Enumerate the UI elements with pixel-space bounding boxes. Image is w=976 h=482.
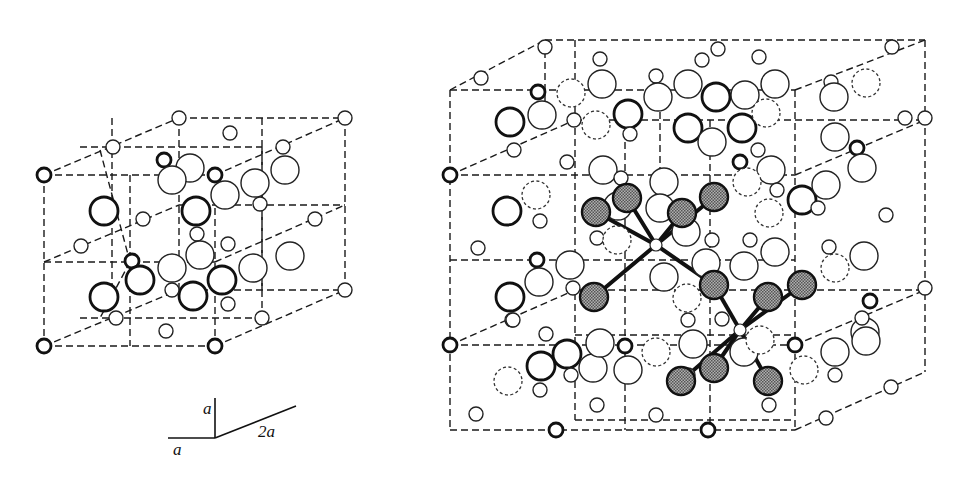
large-atom-thin — [821, 123, 849, 151]
large-atom-dashed — [852, 69, 880, 97]
small-atom-thin — [918, 281, 932, 295]
small-atom-thin — [165, 283, 179, 297]
small-atom-bold — [850, 141, 864, 155]
large-atom-thin — [848, 154, 876, 182]
small-atom-thin — [190, 227, 204, 241]
small-atom-thin — [811, 201, 825, 215]
large-atom-thin — [239, 254, 267, 282]
large-atom-thin — [820, 83, 848, 111]
small-atom-thin — [223, 126, 237, 140]
large-atom-thin — [730, 252, 758, 280]
small-atom-bold — [37, 168, 51, 182]
large-atom-thin — [650, 263, 678, 291]
large-atom-shaded — [668, 199, 696, 227]
large-atom-dashed — [746, 326, 774, 354]
small-atom-thin — [474, 71, 488, 85]
large-atom-thin — [674, 70, 702, 98]
large-atom-shaded — [754, 283, 782, 311]
axis-label-vertical: a — [203, 399, 212, 418]
small-atom-thin — [711, 42, 725, 56]
small-atom-thin — [649, 408, 663, 422]
large-atom-bold — [496, 108, 524, 136]
large-atom-shaded — [754, 367, 782, 395]
large-atom-dashed — [821, 254, 849, 282]
large-atom-thin — [812, 171, 840, 199]
large-atom-bold — [126, 266, 154, 294]
axis-line — [215, 406, 296, 438]
large-atom-dashed — [790, 356, 818, 384]
small-atom-thin — [539, 327, 553, 341]
small-atom-thin — [590, 398, 604, 412]
small-atom-thin — [566, 281, 580, 295]
large-atom-thin — [525, 268, 553, 296]
small-atom-bold — [443, 338, 457, 352]
small-atom-thin — [743, 233, 757, 247]
large-atom-dashed — [673, 284, 701, 312]
large-atom-bold — [90, 283, 118, 311]
large-atom-bold — [553, 340, 581, 368]
small-atom-thin — [705, 233, 719, 247]
large-atom-thin — [588, 70, 616, 98]
large-atom-shaded — [613, 184, 641, 212]
large-atom-thin — [852, 327, 880, 355]
small-atom-thin — [590, 231, 604, 245]
small-atom-thin — [469, 407, 483, 421]
small-atom-thin — [221, 237, 235, 251]
right-cell-atoms — [443, 40, 932, 437]
large-atom-shaded — [700, 271, 728, 299]
small-atom-thin — [898, 111, 912, 125]
large-atom-dashed — [582, 111, 610, 139]
small-atom-thin — [308, 212, 322, 226]
large-atom-thin — [850, 242, 878, 270]
small-atom-thin — [762, 398, 776, 412]
large-atom-thin — [761, 238, 789, 266]
large-atom-dashed — [755, 199, 783, 227]
large-atom-thin — [614, 356, 642, 384]
small-atom-bold — [788, 338, 802, 352]
small-atom-bold — [208, 168, 222, 182]
large-atom-shaded — [788, 271, 816, 299]
large-atom-thin — [556, 251, 584, 279]
large-atom-shaded — [667, 367, 695, 395]
small-atom-thin — [538, 40, 552, 54]
small-atom-thin — [885, 40, 899, 54]
large-atom-shaded — [700, 183, 728, 211]
small-atom-bold — [208, 339, 222, 353]
small-atom-thin — [221, 297, 235, 311]
large-atom-thin — [679, 330, 707, 358]
small-atom-thin — [681, 313, 695, 327]
small-atom-thin — [751, 143, 765, 157]
axis-label-horizontal: a — [173, 440, 182, 459]
small-atom-bold — [549, 423, 563, 437]
large-atom-bold — [614, 100, 642, 128]
large-atom-thin — [276, 242, 304, 270]
small-atom-thin — [74, 239, 88, 253]
small-atom-thin — [106, 140, 120, 154]
large-atom-thin — [271, 156, 299, 184]
large-atom-shaded — [700, 354, 728, 382]
large-atom-thin — [528, 101, 556, 129]
small-atom-center — [650, 239, 662, 251]
small-atom-thin — [507, 143, 521, 157]
cell-edge — [450, 40, 545, 90]
large-atom-bold — [182, 197, 210, 225]
large-atom-dashed — [733, 168, 761, 196]
small-atom-thin — [159, 324, 173, 338]
large-atom-thin — [241, 169, 269, 197]
small-atom-thin — [623, 127, 637, 141]
small-atom-thin — [533, 383, 547, 397]
small-atom-thin — [506, 313, 520, 327]
large-atom-dashed — [557, 79, 585, 107]
large-atom-thin — [698, 128, 726, 156]
small-atom-thin — [533, 214, 547, 228]
large-atom-bold — [702, 83, 730, 111]
cell-edge — [795, 372, 925, 430]
small-atom-thin — [593, 52, 607, 66]
small-atom-bold — [531, 85, 545, 99]
large-atom-thin — [589, 156, 617, 184]
small-atom-thin — [338, 111, 352, 125]
small-atom-thin — [560, 155, 574, 169]
small-atom-bold — [701, 423, 715, 437]
small-atom-thin — [879, 208, 893, 222]
large-atom-bold — [208, 266, 236, 294]
